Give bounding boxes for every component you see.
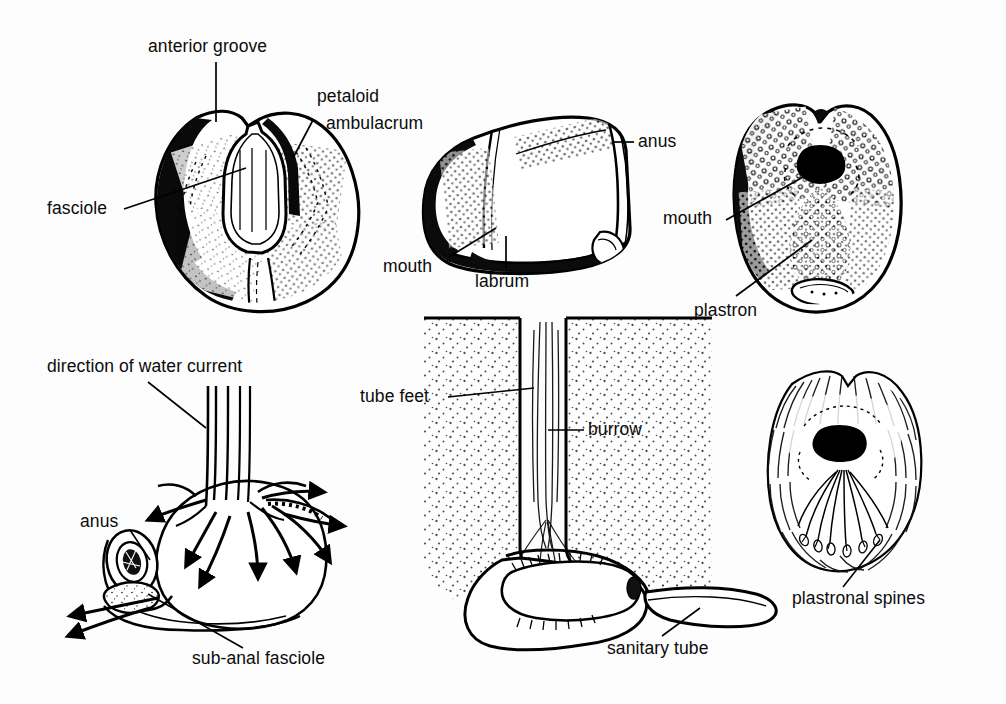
label-labrum: labrum [475,271,529,291]
panel-spinous-specimen [768,371,922,587]
label-sanitary-tube: sanitary tube [607,638,709,658]
label-mouth-oral: mouth [663,208,712,228]
label-direction-water-current: direction of water current [47,356,242,376]
sanitary-tube [645,588,776,627]
label-anterior-groove: anterior groove [148,36,267,56]
label-tube-feet: tube feet [360,386,429,406]
label-mouth-lateral: mouth [383,256,432,276]
panel-oral-view [726,105,907,312]
urchin-in-burrow [502,562,640,621]
label-sub-anal-fasciole: sub-anal fasciole [192,648,325,668]
label-anus-lateral: anus [638,131,676,151]
mouth-spiny [812,425,866,462]
label-plastron: plastron [694,300,757,320]
label-ambulacrum: ambulacrum [326,113,423,133]
sediment-right [566,318,712,592]
mouth-peristome [797,145,846,184]
label-plastronal-spines: plastronal spines [792,588,925,608]
figure-canvas: anterior groove petaloid ambulacrum fasc… [0,0,1006,704]
panel-lateral-view [423,116,634,274]
label-burrow: burrow [588,419,642,439]
label-anus-current: anus [80,511,118,531]
panel-burrow-section [424,318,776,650]
tube-feet-strand [533,322,559,548]
label-petaloid: petaloid [317,86,379,106]
leader-direction-water-current [148,382,206,428]
label-fasciole: fasciole [47,198,107,218]
